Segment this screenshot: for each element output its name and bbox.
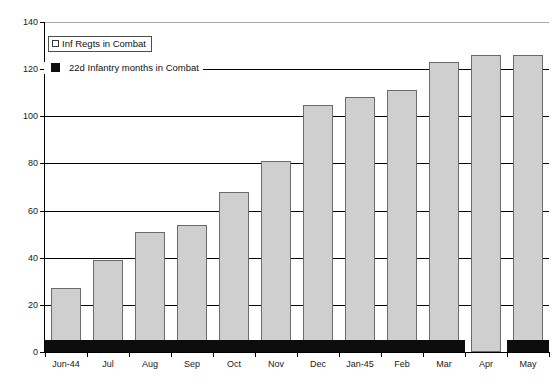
x-axis-tick	[339, 352, 340, 357]
bar-inf-regts	[345, 97, 375, 352]
y-axis-label: 120	[23, 65, 38, 74]
x-axis-label: Jan-45	[346, 360, 374, 369]
y-axis-label: 140	[23, 18, 38, 27]
x-axis-tick	[87, 352, 88, 357]
bar-group: May	[507, 22, 549, 352]
x-axis-label: May	[519, 360, 536, 369]
x-axis-tick	[297, 352, 298, 357]
x-axis-label: Jun-44	[52, 360, 80, 369]
bar-inf-regts	[513, 55, 543, 352]
x-axis-tick	[381, 352, 382, 357]
bar-22d-infantry	[255, 340, 297, 352]
bar-group: Dec	[297, 22, 339, 352]
x-axis-tick	[507, 352, 508, 357]
x-axis-tick	[423, 352, 424, 357]
bar-inf-regts	[261, 161, 291, 352]
legend-swatch-filled-square-icon	[51, 63, 60, 72]
x-axis-label: Feb	[394, 360, 410, 369]
bar-inf-regts	[471, 55, 501, 352]
bar-chart: 020406080100120140Jun-44JulAugSepOctNovD…	[0, 0, 556, 389]
x-axis-label: Mar	[436, 360, 452, 369]
x-axis-label: Oct	[227, 360, 241, 369]
x-axis-label: Sep	[184, 360, 200, 369]
bar-inf-regts	[135, 232, 165, 352]
bar-22d-infantry	[171, 340, 213, 352]
x-axis-label: Nov	[268, 360, 284, 369]
y-axis-label: 100	[23, 112, 38, 121]
y-axis-label: 40	[28, 253, 38, 262]
bar-22d-infantry	[423, 340, 465, 352]
x-axis-tick	[45, 352, 46, 357]
x-axis-tick	[129, 352, 130, 357]
bar-22d-infantry	[213, 340, 255, 352]
bar-group: Mar	[423, 22, 465, 352]
legend-item-inf-regts: Inf Regts in Combat	[48, 36, 152, 52]
legend-label-inf-regts: Inf Regts in Combat	[62, 39, 146, 49]
x-axis-label: Jul	[102, 360, 114, 369]
bar-inf-regts	[429, 62, 459, 352]
y-axis-label: 60	[28, 206, 38, 215]
x-axis-label: Apr	[479, 360, 493, 369]
y-axis-label: 20	[28, 300, 38, 309]
bar-22d-infantry	[129, 340, 171, 352]
x-axis-tick	[255, 352, 256, 357]
legend-item-22d-infantry: 22d Infantry months in Combat	[44, 62, 203, 74]
y-axis-label: 0	[33, 348, 38, 357]
bar-inf-regts	[93, 260, 123, 352]
bar-22d-infantry	[339, 340, 381, 352]
x-axis-tick	[171, 352, 172, 357]
bar-inf-regts	[219, 192, 249, 352]
x-axis-tick	[549, 352, 550, 357]
bar-inf-regts	[387, 90, 417, 352]
x-axis-tick	[213, 352, 214, 357]
bar-22d-infantry	[45, 340, 87, 352]
bar-group: Jan-45	[339, 22, 381, 352]
legend-swatch-open-square-icon	[52, 40, 59, 47]
bar-22d-infantry	[297, 340, 339, 352]
x-axis-label: Dec	[310, 360, 326, 369]
x-axis-tick	[465, 352, 466, 357]
bar-group: Oct	[213, 22, 255, 352]
legend-label-22d-infantry: 22d Infantry months in Combat	[69, 63, 199, 73]
bar-inf-regts	[177, 225, 207, 352]
bar-group: Nov	[255, 22, 297, 352]
bar-group: Apr	[465, 22, 507, 352]
y-axis-label: 80	[28, 159, 38, 168]
bar-22d-infantry	[87, 340, 129, 352]
bar-22d-infantry	[381, 340, 423, 352]
bar-22d-infantry	[507, 340, 549, 352]
bar-group: Feb	[381, 22, 423, 352]
x-axis-label: Aug	[142, 360, 158, 369]
bar-inf-regts	[303, 105, 333, 353]
